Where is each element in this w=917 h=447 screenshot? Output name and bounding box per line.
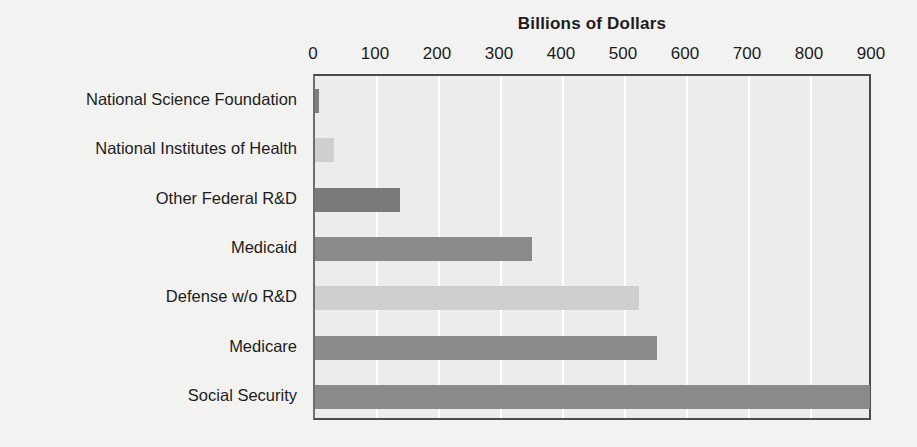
- bar-row: [315, 237, 869, 261]
- bar: [315, 89, 319, 113]
- bar: [315, 286, 639, 310]
- y-tick-label: Other Federal R&D: [156, 188, 297, 207]
- chart-title: Billions of Dollars: [313, 14, 871, 34]
- x-tick-label-600: 600: [671, 44, 699, 64]
- y-tick-label: Medicaid: [231, 238, 297, 257]
- x-tick-label-0: 0: [308, 44, 317, 64]
- y-tick-label: National Institutes of Health: [95, 139, 297, 158]
- x-tick-label-700: 700: [733, 44, 761, 64]
- bar-row: [315, 188, 869, 212]
- bar: [315, 385, 870, 409]
- bar-row: [315, 138, 869, 162]
- bar-row: [315, 89, 869, 113]
- plot-area: [313, 74, 871, 420]
- bar-row: [315, 385, 869, 409]
- y-tick-label: Defense w/o R&D: [166, 287, 297, 306]
- bar-row: [315, 286, 869, 310]
- x-tick-label-300: 300: [485, 44, 513, 64]
- y-tick-label: Medicare: [229, 336, 297, 355]
- x-tick-label-500: 500: [609, 44, 637, 64]
- x-tick-label-100: 100: [361, 44, 389, 64]
- bar: [315, 237, 532, 261]
- x-axis-tick-labels: 0100200300400500600700800900: [0, 44, 917, 70]
- bar: [315, 138, 334, 162]
- bar-chart: Billions of Dollars 01002003004005006007…: [0, 0, 917, 447]
- x-tick-label-400: 400: [547, 44, 575, 64]
- bar-series: [315, 76, 869, 418]
- bar: [315, 188, 400, 212]
- x-tick-label-200: 200: [423, 44, 451, 64]
- x-tick-label-900: 900: [857, 44, 885, 64]
- y-axis-category-labels: National Science FoundationNational Inst…: [0, 74, 305, 420]
- y-tick-label: National Science Foundation: [86, 89, 297, 108]
- bar: [315, 336, 657, 360]
- y-tick-label: Social Security: [188, 386, 297, 405]
- x-tick-label-800: 800: [795, 44, 823, 64]
- bar-row: [315, 336, 869, 360]
